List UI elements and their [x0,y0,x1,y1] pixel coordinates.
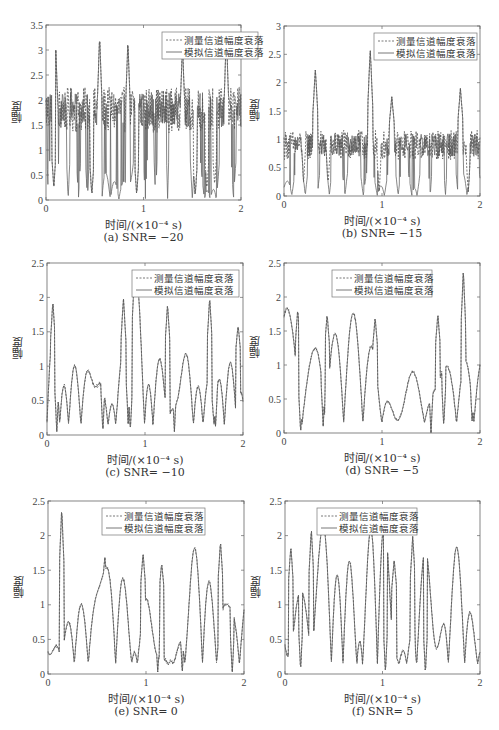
legend: 测量信道幅度衰落模拟信道幅度衰落 [317,508,419,535]
simulated-series-line [48,513,244,673]
plot-area: 00.511.522.5012测量信道幅度衰落模拟信道幅度衰落 [285,501,480,674]
legend-label-measured: 测量信道幅度衰落 [124,511,204,522]
x-axis-label: 时间/(×10⁻⁴ s) [285,690,480,706]
simulated-series-line [47,275,243,432]
x-tick-label: 1 [380,199,385,210]
y-tick-label: 3 [38,45,43,56]
x-tick-label: 2 [242,677,247,688]
y-tick-label: 2 [276,77,281,88]
measured-series-line [48,513,244,673]
x-axis-label: 时间/(×10⁻⁴ s) [48,690,244,706]
y-axis-label: 幅度 [10,101,26,123]
y-tick-label: 0.5 [32,395,45,406]
subplot-d: 00.511.522.5012测量信道幅度衰落模拟信道幅度衰落幅度时间/(×10… [284,263,480,433]
legend-label-simulated: 模拟信道幅度衰落 [124,523,204,534]
y-tick-label: 1 [40,599,45,610]
x-axis-label: 时间/(×10⁻⁴ s) [284,449,480,465]
legend: 测量信道幅度衰落模拟信道幅度衰落 [162,32,264,59]
plot-area: 00.511.522.5012测量信道幅度衰落模拟信道幅度衰落 [48,501,244,674]
x-tick-label: 1 [144,677,149,688]
x-axis-label: 时间/(×10⁻⁴ s) [47,451,243,467]
subplot-f: 00.511.522.5012测量信道幅度衰落模拟信道幅度衰落幅度时间/(×10… [285,501,480,674]
subplot-a: 00.511.522.533.5012测量信道幅度衰落模拟信道幅度衰落幅度时间/… [46,25,241,200]
y-tick-label: 1.5 [31,120,44,131]
y-tick-label: 1.5 [32,326,45,337]
y-tick-label: 0.5 [269,162,282,173]
y-tick-label: 0.5 [33,634,46,645]
y-tick-label: 0 [38,195,43,206]
x-tick-label: 0 [45,438,50,449]
legend-label-simulated: 模拟信道幅度衰落 [354,285,434,296]
x-tick-label: 1 [380,677,385,688]
legend-label-measured: 测量信道幅度衰落 [184,35,264,46]
legend-label-simulated: 模拟信道幅度衰落 [339,523,419,534]
subplot-caption: (b) SNR= −15 [284,227,480,240]
legend-label-simulated: 模拟信道幅度衰落 [396,48,476,59]
y-tick-label: 2 [39,292,44,303]
y-axis-label: 幅度 [249,576,265,598]
x-tick-label: 2 [239,203,244,214]
x-tick-label: 0 [283,677,288,688]
legend-label-simulated: 模拟信道幅度衰落 [184,47,264,58]
y-tick-label: 1 [276,360,281,371]
subplot-caption: (f) SNR= 5 [285,705,480,718]
x-tick-label: 1 [141,203,146,214]
simulated-series-line [285,526,480,671]
simulated-series-line [284,51,480,196]
plot-area: 00.511.522.5012测量信道幅度衰落模拟信道幅度衰落 [284,263,480,433]
legend: 测量信道幅度衰落模拟信道幅度衰落 [102,508,205,535]
y-tick-label: 1.5 [269,326,282,337]
subplot-caption: (a) SNR= −20 [46,231,241,244]
x-axis-label: 时间/(×10⁻⁴ s) [46,216,241,232]
legend-label-measured: 测量信道幅度衰落 [396,36,476,47]
x-tick-label: 0 [282,199,287,210]
measured-series-line [285,525,480,671]
x-axis-label: 时间/(×10⁻⁴ s) [284,212,480,228]
x-tick-label: 2 [478,199,483,210]
y-tick-label: 1 [39,361,44,372]
y-tick-label: 0 [276,428,281,439]
x-tick-label: 1 [143,438,148,449]
x-tick-label: 0 [282,436,287,447]
y-tick-label: 2.5 [270,496,283,507]
y-tick-label: 1 [38,145,43,156]
y-tick-label: 2 [38,95,43,106]
y-tick-label: 2.5 [269,49,282,60]
x-tick-label: 2 [478,436,483,447]
subplot-caption: (d) SNR= −5 [284,464,480,477]
y-tick-label: 0 [40,669,45,680]
y-tick-label: 0 [276,191,281,202]
y-tick-label: 3 [276,21,281,32]
y-tick-label: 2 [40,530,45,541]
y-tick-label: 2.5 [269,258,282,269]
y-axis-label: 幅度 [11,337,27,359]
x-tick-label: 0 [46,677,51,688]
y-tick-label: 0 [277,669,282,680]
x-tick-label: 1 [380,436,385,447]
plot-area: 00.511.522.53012测量信道幅度衰落模拟信道幅度衰落 [284,26,480,196]
y-tick-label: 1 [277,599,282,610]
measured-series-line [47,275,243,432]
legend: 测量信道幅度衰落模拟信道幅度衰落 [374,33,477,60]
legend-label-measured: 测量信道幅度衰落 [354,273,434,284]
legend-label-measured: 测量信道幅度衰落 [154,273,234,284]
y-axis-label: 幅度 [12,576,28,598]
y-tick-label: 1.5 [270,565,283,576]
legend-label-simulated: 模拟信道幅度衰落 [154,285,234,296]
x-tick-label: 2 [241,438,246,449]
legend-label-measured: 测量信道幅度衰落 [339,511,419,522]
y-tick-label: 0.5 [270,634,283,645]
legend: 测量信道幅度衰落模拟信道幅度衰落 [332,270,434,297]
plot-area: 00.511.522.5012测量信道幅度衰落模拟信道幅度衰落 [47,263,243,435]
subplot-b: 00.511.522.53012测量信道幅度衰落模拟信道幅度衰落幅度时间/(×1… [284,26,480,196]
y-axis-label: 幅度 [248,99,264,121]
measured-series-line [284,51,480,192]
y-tick-label: 0.5 [269,394,282,405]
subplot-e: 00.511.522.5012测量信道幅度衰落模拟信道幅度衰落幅度时间/(×10… [48,501,244,674]
y-tick-label: 1.5 [269,106,282,117]
subplot-c: 00.511.522.5012测量信道幅度衰落模拟信道幅度衰落幅度时间/(×10… [47,263,243,435]
y-tick-label: 2.5 [32,258,45,269]
x-tick-label: 0 [44,203,49,214]
y-tick-label: 2.5 [33,496,46,507]
y-tick-label: 2.5 [31,70,44,81]
